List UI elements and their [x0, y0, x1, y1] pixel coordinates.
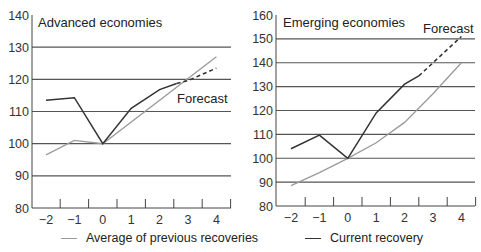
legend-label: Current recovery — [330, 231, 423, 245]
y-tick-label: 160 — [252, 9, 273, 23]
y-tick-label: 130 — [252, 80, 273, 94]
y-tick-label: 110 — [253, 128, 273, 142]
legend-item-average: Average of previous recoveries — [61, 231, 258, 245]
x-tick-label: −1 — [312, 211, 326, 225]
forecast-line — [177, 68, 217, 83]
average-recovery-line — [291, 63, 461, 186]
y-tick-label: 140 — [252, 56, 273, 70]
y-tick-label: 90 — [15, 169, 29, 183]
x-tick-label: 1 — [128, 213, 135, 227]
x-tick-label: 2 — [156, 213, 163, 227]
x-tick-label: 0 — [344, 211, 351, 225]
y-tick-label: 120 — [8, 73, 29, 87]
legend-swatch-dark-line-icon — [305, 238, 321, 239]
panel-title: Advanced economies — [38, 15, 163, 30]
y-tick-label: 110 — [9, 105, 29, 119]
x-tick-label: 4 — [213, 213, 220, 227]
x-tick-label: 3 — [430, 211, 437, 225]
y-tick-label: 80 — [15, 202, 29, 216]
current-recovery-line — [291, 76, 419, 158]
y-tick-label: 100 — [252, 152, 273, 166]
forecast-annotation: Forecast — [177, 91, 228, 106]
y-tick-label: 100 — [8, 137, 29, 151]
legend-item-current: Current recovery — [305, 231, 423, 245]
x-tick-label: 3 — [185, 213, 192, 227]
advanced-economies-panel: 8090100110120130140−2−101234Advanced eco… — [8, 9, 231, 228]
y-tick-label: 150 — [252, 32, 273, 46]
legend-swatch-gray-line-icon — [61, 238, 77, 239]
x-tick-label: −2 — [39, 213, 53, 227]
x-tick-label: 0 — [99, 213, 106, 227]
x-tick-label: −1 — [67, 213, 81, 227]
panel-title: Emerging economies — [283, 15, 406, 30]
x-tick-label: 2 — [401, 211, 408, 225]
x-tick-label: −2 — [284, 211, 298, 225]
current-recovery-line — [46, 84, 177, 144]
legend: Average of previous recoveries Current r… — [0, 231, 481, 249]
legend-label: Average of previous recoveries — [86, 231, 258, 245]
y-tick-label: 130 — [8, 41, 29, 55]
y-tick-label: 140 — [8, 9, 29, 23]
x-tick-label: 4 — [458, 211, 465, 225]
forecast-annotation: Forecast — [423, 21, 474, 36]
y-tick-label: 90 — [259, 176, 273, 190]
emerging-economies-panel: 8090100110120130140150160−2−101234Emergi… — [252, 9, 475, 226]
x-tick-label: 1 — [373, 211, 380, 225]
y-tick-label: 80 — [259, 200, 273, 214]
y-tick-label: 120 — [252, 104, 273, 118]
chart-canvas: 8090100110120130140−2−101234Advanced eco… — [0, 0, 481, 252]
